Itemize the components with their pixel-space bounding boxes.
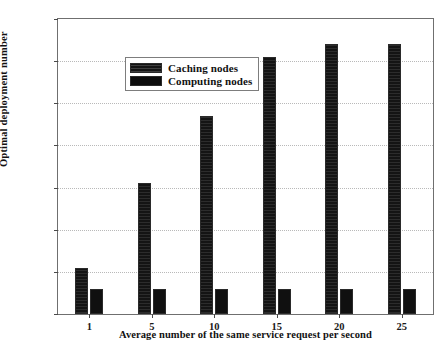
x-tick-mark (89, 314, 90, 318)
bar-computing-25 (403, 289, 416, 314)
legend-item-computing: Computing nodes (130, 74, 252, 87)
bar-computing-10 (215, 289, 228, 314)
legend-swatch-caching-icon (130, 63, 162, 73)
chart-legend: Caching nodes Computing nodes (125, 57, 259, 91)
x-tick-mark (277, 314, 278, 318)
bar-computing-20 (340, 289, 353, 314)
bar-caching-25 (388, 44, 401, 314)
x-axis-title: Average number of the same service reque… (57, 329, 434, 340)
plot-area: 010203040506070 Caching nodes Computing … (57, 18, 434, 315)
legend-swatch-computing-icon (130, 76, 162, 86)
x-tick-mark (339, 314, 340, 318)
bar-caching-20 (325, 44, 338, 314)
bar-computing-5 (153, 289, 166, 314)
figure-bar-chart: Optimal deployment number 01020304050607… (0, 0, 448, 353)
bar-caching-15 (263, 57, 276, 314)
bar-computing-1 (90, 289, 103, 314)
legend-label-computing: Computing nodes (168, 75, 252, 87)
y-tick-mark (54, 314, 58, 315)
bar-caching-10 (200, 116, 213, 314)
bar-computing-15 (278, 289, 291, 314)
y-axis-title: Optimal deployment number (0, 31, 9, 167)
x-tick-mark (402, 314, 403, 318)
bar-caching-5 (138, 183, 151, 314)
legend-label-caching: Caching nodes (168, 62, 238, 74)
x-tick-mark (152, 314, 153, 318)
x-tick-mark (214, 314, 215, 318)
bar-caching-1 (75, 268, 88, 314)
legend-item-caching: Caching nodes (130, 61, 252, 74)
